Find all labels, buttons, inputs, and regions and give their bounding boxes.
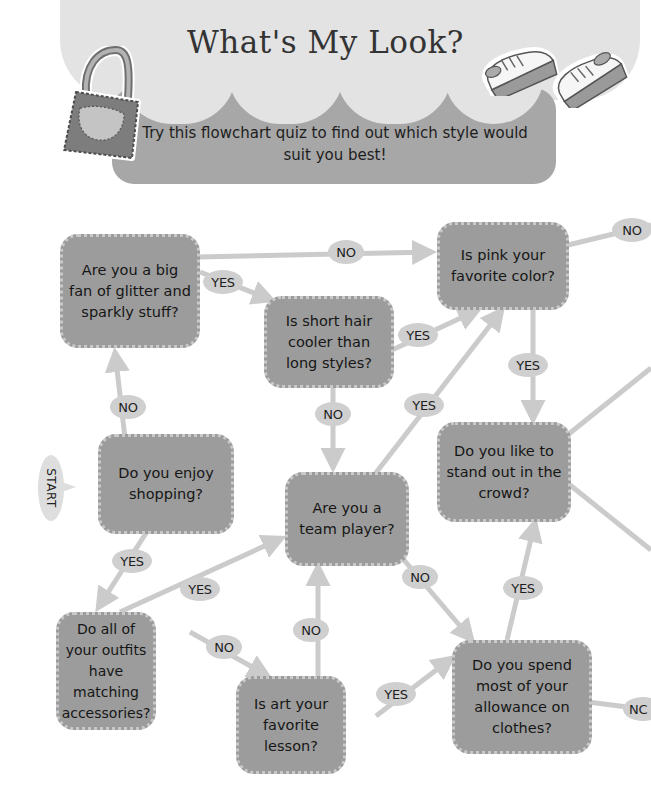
question-text: Do you like to stand out in the crowd? <box>446 441 562 504</box>
answer-yes-shorthair-to-pink: YES <box>398 323 438 347</box>
start-pointer <box>62 482 76 492</box>
question-text: Are you a team player? <box>294 498 400 540</box>
question-text: Are you a big fan of glitter and sparkly… <box>69 260 191 323</box>
question-text: Do you spend most of your allowance on c… <box>461 655 583 739</box>
question-glitter[interactable]: Are you a big fan of glitter and sparkly… <box>60 234 200 348</box>
start-marker: START <box>38 455 64 521</box>
answer-yes-shopping-to-matching: YES <box>112 549 152 573</box>
arrow-standout-offpage-upper <box>565 368 651 437</box>
answer-no-glitter-to-pink: NO <box>328 240 364 264</box>
answer-yes-art-to-allowance: YES <box>376 682 416 706</box>
answer-no-art-to-teamplayer: NO <box>293 618 329 642</box>
arrow-standout-offpage-lower <box>570 485 651 550</box>
question-art[interactable]: Is art your favorite lesson? <box>236 676 346 774</box>
answer-no-shopping-to-glitter: NO <box>110 395 146 419</box>
question-text: Is pink your favorite color? <box>446 245 560 287</box>
question-allowance[interactable]: Do you spend most of your allowance on c… <box>452 640 592 754</box>
answer-yes-allowance-to-standout: YES <box>503 576 543 600</box>
answer-yes-pink-to-standout: YES <box>508 353 548 377</box>
answer-yes-matching-to-teamplayer: YES <box>180 577 220 601</box>
answer-yes-teamplayer-to-pink: YES <box>404 393 444 417</box>
question-stand-out[interactable]: Do you like to stand out in the crowd? <box>437 422 571 522</box>
answer-no-teamplayer-to-allowance: NO <box>402 565 438 589</box>
question-team-player[interactable]: Are you a team player? <box>285 472 409 566</box>
arrow-glitter-to-pink <box>198 252 432 257</box>
question-shopping[interactable]: Do you enjoy shopping? <box>98 434 234 534</box>
question-short-hair[interactable]: Is short hair cooler than long styles? <box>264 296 394 388</box>
answer-yes-glitter-to-shorthair: YES <box>203 270 243 294</box>
question-pink[interactable]: Is pink your favorite color? <box>437 222 569 310</box>
question-text: Is short hair cooler than long styles? <box>273 311 385 374</box>
start-label: START <box>44 468 58 508</box>
answer-no-pink-offpage: NO <box>612 218 651 242</box>
question-text: Is art your favorite lesson? <box>245 694 337 757</box>
question-text: Do all of your outfits have matching acc… <box>62 619 151 724</box>
answer-no-matching-to-art: NO <box>206 635 242 659</box>
question-matching[interactable]: Do all of your outfits have matching acc… <box>56 612 156 730</box>
question-text: Do you enjoy shopping? <box>107 463 225 505</box>
answer-no-shorthair-to-teamplayer: NO <box>315 402 351 426</box>
